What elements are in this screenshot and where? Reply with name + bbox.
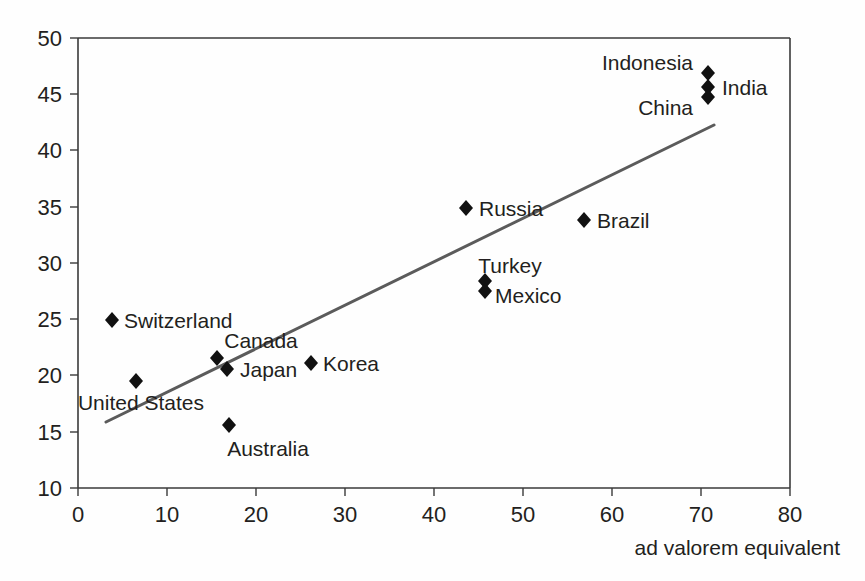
scatter-chart: 50 45 40 35 30 25 20 15 10 0 10 20 30 40… [0,0,865,581]
data-point-marker-japan[interactable] [220,361,234,377]
chart-canvas: 50 45 40 35 30 25 20 15 10 0 10 20 30 40… [0,0,865,581]
data-point-label-india: India [722,76,768,99]
x-tick-label: 70 [689,502,713,527]
y-tick-label: 20 [38,363,62,388]
x-tick-label: 20 [244,502,268,527]
data-point-label-brazil: Brazil [597,209,650,232]
x-tick-label: 40 [422,502,446,527]
x-tick-label: 80 [778,502,802,527]
data-point-label-china: China [638,96,693,119]
y-tick-label: 40 [38,138,62,163]
data-point-labels: Switzerland United States Canada Japan A… [78,51,768,460]
data-point-label-australia: Australia [227,437,309,460]
y-tick-label: 25 [38,307,62,332]
x-tick-label: 30 [333,502,357,527]
data-point-label-japan: Japan [240,358,297,381]
x-tick-label: 50 [511,502,535,527]
data-point-label-switzerland: Switzerland [124,309,233,332]
y-tick-label: 35 [38,195,62,220]
data-point-marker-united-states[interactable] [129,373,143,389]
data-point-label-canada: Canada [224,329,298,352]
data-point-marker-australia[interactable] [222,417,236,433]
data-point-label-turkey: Turkey [478,254,542,277]
y-tick-label: 50 [38,26,62,51]
data-point-label-korea: Korea [323,352,379,375]
x-tick-marks [78,488,790,496]
y-tick-label: 30 [38,251,62,276]
y-tick-marks [70,38,78,488]
data-point-marker-brazil[interactable] [577,212,591,228]
data-point-label-indonesia: Indonesia [602,51,693,74]
x-tick-label: 60 [600,502,624,527]
data-point-label-russia: Russia [479,197,544,220]
x-tick-label: 0 [72,502,84,527]
data-point-marker-russia[interactable] [459,200,473,216]
x-tick-label: 10 [155,502,179,527]
trend-line [106,125,714,422]
data-point-marker-switzerland[interactable] [105,312,119,328]
data-point-marker-indonesia[interactable] [701,65,715,81]
data-point-label-united-states: United States [78,391,204,414]
y-tick-labels: 50 45 40 35 30 25 20 15 10 [38,26,62,501]
y-tick-label: 15 [38,420,62,445]
data-point-marker-china[interactable] [701,89,715,105]
x-tick-labels: 0 10 20 30 40 50 60 70 80 [72,502,802,527]
data-point-marker-mexico[interactable] [478,283,492,299]
x-axis-title: ad valorem equivalent [635,536,841,559]
data-point-marker-canada[interactable] [210,350,224,366]
y-tick-label: 45 [38,82,62,107]
data-point-label-mexico: Mexico [495,284,562,307]
data-point-marker-korea[interactable] [304,355,318,371]
y-tick-label: 10 [38,476,62,501]
